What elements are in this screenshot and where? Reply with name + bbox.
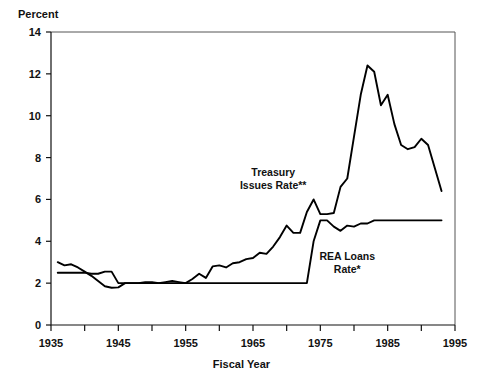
x-tick-label: 1975: [308, 337, 332, 349]
series-line-1: [58, 220, 442, 283]
y-tick-label: 12: [29, 68, 41, 80]
series-annotations: TreasuryIssues Rate**REA LoansRate*: [240, 166, 375, 275]
y-tick-label: 8: [35, 152, 41, 164]
series-label-0-line2: Issues Rate**: [240, 179, 307, 191]
y-tick-label: 4: [35, 235, 42, 247]
y-tick-label: 10: [29, 110, 41, 122]
x-tick-label: 1935: [39, 337, 63, 349]
y-tick-labels: 02468101214: [29, 26, 42, 331]
data-series: [58, 65, 442, 287]
series-label-0: Treasury: [251, 166, 295, 178]
y-tick-label: 2: [35, 277, 41, 289]
x-tick-label: 1965: [241, 337, 265, 349]
y-tick-label: 6: [35, 193, 41, 205]
series-line-0: [58, 65, 442, 287]
y-tick-label: 0: [35, 319, 41, 331]
x-tick-label: 1995: [443, 337, 467, 349]
x-tick-label: 1945: [106, 337, 130, 349]
x-tick-label: 1955: [173, 337, 197, 349]
x-tick-label: 1985: [375, 337, 399, 349]
chart-container: Percent Fiscal Year 02468101214 19351945…: [0, 0, 483, 387]
x-tick-labels: 1935194519551965197519851995: [39, 337, 467, 349]
y-tick-label: 14: [29, 26, 42, 38]
series-label-1: REA Loans: [319, 250, 375, 262]
series-label-1-line2: Rate*: [334, 263, 362, 275]
plot-area: 02468101214 1935194519551965197519851995…: [0, 0, 483, 387]
